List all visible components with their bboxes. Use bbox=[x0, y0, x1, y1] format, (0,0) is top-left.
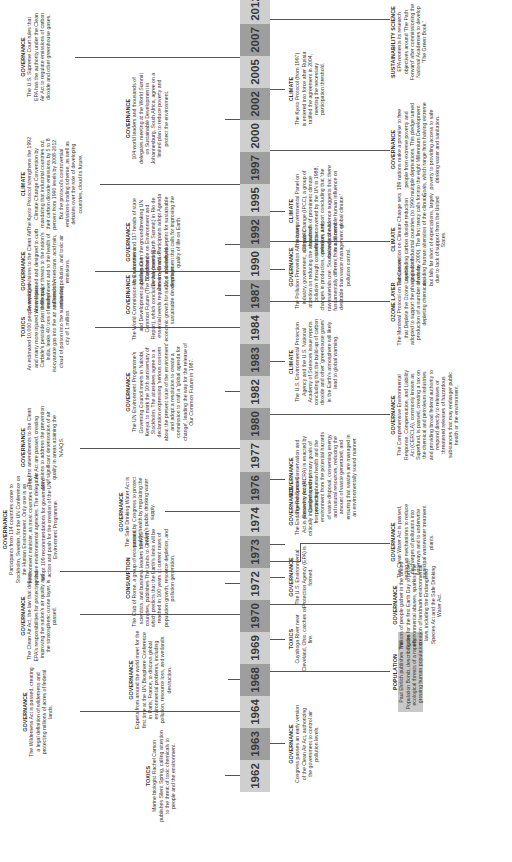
event-text: The Clean Water Act is passed, setting u… bbox=[396, 502, 434, 582]
connector-line bbox=[75, 57, 240, 58]
event-text: Sweeping revisions to the Clean Air Act … bbox=[26, 228, 70, 314]
event-1980-cercla-superfund: GOVERNANCE The Comprehensive Environment… bbox=[390, 368, 459, 462]
event-2005-kyoto-in-force: CLIMATE The Kyoto Protocol (from 1997) i… bbox=[288, 51, 326, 127]
year-label: 1963 bbox=[240, 728, 270, 760]
year-label: 1970 bbox=[240, 600, 270, 632]
event-1976-rcra: GOVERNANCE The Resource Conservation and… bbox=[288, 432, 357, 522]
year-label: 1972 bbox=[240, 568, 270, 600]
connector-line bbox=[270, 561, 300, 562]
year-label: 1995 bbox=[240, 184, 270, 216]
event-1992-climate-convention: CLIMATE The Convention on Climate Change… bbox=[390, 192, 447, 287]
timeline-diagram: 1962 1963 1964 1968 1969 1970 1972 1973 … bbox=[0, 0, 512, 862]
year-label: 1982 bbox=[240, 376, 270, 408]
event-text: The Comprehensive Environmental Response… bbox=[396, 368, 459, 462]
event-1974-safe-drinking-water-act: GOVERNANCE The Safe Drinking Water Act i… bbox=[118, 472, 156, 552]
connector-line bbox=[60, 571, 240, 572]
connector-line bbox=[300, 543, 390, 544]
event-2012-sustainability-science: SUSTAINABILITY SCIENCE EPA reorients its… bbox=[390, 2, 428, 82]
event-text: The Kyoto Protocol strengthens the 1992 … bbox=[26, 136, 83, 232]
year-label: 1962 bbox=[240, 760, 270, 792]
year-label: 1974 bbox=[240, 504, 270, 536]
event-text: 189 nations make a promise to free peopl… bbox=[396, 102, 440, 197]
event-1964-wilderness-act: GOVERNANCE The Wilderness Act is passed,… bbox=[22, 666, 53, 758]
event-text: The Safe Drinking Water Act is passed by… bbox=[124, 472, 155, 552]
year-label: 1980 bbox=[240, 408, 270, 440]
connector-line bbox=[225, 119, 240, 120]
year-label: 1987 bbox=[240, 280, 270, 312]
event-text: Marine biologist Rachel Carson publishes… bbox=[151, 730, 176, 822]
event-2000-millennium-development-goals: GOVERNANCE 189 nations make a promise to… bbox=[390, 102, 440, 197]
event-text: The U.S. Environmental Protection Agency… bbox=[294, 317, 338, 407]
connector-line bbox=[225, 775, 240, 776]
year-label: 1977 bbox=[240, 440, 270, 472]
event-text: The first amendments to the Clean Air Ac… bbox=[26, 405, 64, 490]
connector-line bbox=[225, 583, 240, 584]
event-text: The U.S. Environmental Protection Agency… bbox=[294, 540, 313, 614]
event-text: Experts from around the world meet for t… bbox=[134, 630, 172, 730]
connector-line bbox=[80, 448, 240, 449]
event-1997-kyoto-protocol: CLIMATE The Kyoto Protocol strengthens t… bbox=[20, 136, 83, 232]
connector-line bbox=[225, 295, 240, 296]
event-1995-ipcc-report: CLIMATE The Intergovernmental Panel on C… bbox=[288, 165, 345, 257]
event-text: The UN Environment Programme's Governing… bbox=[131, 342, 194, 442]
event-1982-unep-nairobi: GOVERNANCE The UN Environment Programme'… bbox=[125, 342, 194, 442]
year-label: 2002 bbox=[240, 88, 270, 120]
connector-line bbox=[270, 544, 285, 545]
year-label: 1983 bbox=[240, 344, 270, 376]
connector-line bbox=[270, 150, 390, 151]
event-1977-clean-air-act-amendments: GOVERNANCE The first amendments to the C… bbox=[20, 405, 64, 490]
event-2007-supreme-court-ruling: GOVERNANCE The U.S. Supreme Court rules … bbox=[20, 12, 51, 102]
connector-line bbox=[270, 577, 285, 578]
connector-line bbox=[270, 414, 390, 415]
year-label: 2000 bbox=[240, 120, 270, 152]
event-1992-earth-summit: GOVERNANCE Most countries and 117 heads … bbox=[125, 192, 182, 292]
event-text: The Wilderness Act is passed, creating a… bbox=[28, 666, 53, 758]
event-text: Most countries and 117 heads of state pa… bbox=[131, 192, 181, 292]
connector-line bbox=[270, 19, 390, 20]
event-text: 104 world leaders and thousands of deleg… bbox=[131, 71, 169, 166]
event-1983-climate-reports: CLIMATE The U.S. Environmental Protectio… bbox=[288, 317, 338, 407]
year-label: 2007 bbox=[240, 24, 270, 56]
year-label: 1964 bbox=[240, 696, 270, 728]
connector-line bbox=[270, 211, 285, 212]
year-label: 1990 bbox=[240, 248, 270, 280]
year-label: 1984 bbox=[240, 312, 270, 344]
connector-line bbox=[270, 639, 285, 640]
year-label: 1997 bbox=[240, 152, 270, 184]
event-text: The Resource Conservation and Recovery A… bbox=[294, 432, 357, 522]
year-label: 2012 bbox=[240, 0, 270, 24]
year-label: 1976 bbox=[240, 472, 270, 504]
event-2002-world-summit: GOVERNANCE 104 world leaders and thousan… bbox=[125, 71, 169, 166]
event-text: EPA reorients its research objectives ar… bbox=[396, 2, 427, 82]
connector-line bbox=[270, 89, 285, 90]
timeline-axis: 1962 1963 1964 1968 1969 1970 1972 1973 … bbox=[240, 12, 270, 792]
connector-line bbox=[165, 511, 240, 512]
event-1962-toxics: TOXICS Marine biologist Rachel Carson pu… bbox=[145, 730, 176, 822]
year-label: 1992 bbox=[240, 216, 270, 248]
year-label: 1968 bbox=[240, 664, 270, 696]
connector-line bbox=[300, 544, 301, 562]
connector-line bbox=[100, 184, 240, 185]
event-1990-clean-air-act-revisions: GOVERNANCE Sweeping revisions to the Cle… bbox=[20, 228, 70, 314]
connector-line bbox=[225, 391, 240, 392]
connector-line bbox=[270, 479, 285, 480]
event-1963-early-clean-air-act: GOVERNANCE Congress passes an early vers… bbox=[288, 704, 319, 784]
event-text: The U.S. Supreme Court rules that EPA ha… bbox=[26, 12, 51, 102]
event-1968-biosphere-conference: GOVERNANCE Experts from around the world… bbox=[128, 630, 172, 730]
event-1972-clean-water-act: GOVERNANCE The Clean Water Act is passed… bbox=[390, 502, 434, 582]
event-text: The Intergovernmental Panel on Climate C… bbox=[294, 165, 344, 257]
year-label: 2005 bbox=[240, 56, 270, 88]
connector-line bbox=[270, 361, 285, 362]
connector-line bbox=[225, 244, 240, 245]
year-label: 1973 bbox=[240, 536, 270, 568]
connector-line bbox=[228, 679, 240, 680]
year-label: 1969 bbox=[240, 632, 270, 664]
event-text: Congress passes an early version of the … bbox=[294, 704, 319, 784]
event-text: The Kyoto Protocol (from 1997) is entere… bbox=[294, 51, 325, 127]
connector-line bbox=[270, 269, 285, 270]
connector-line bbox=[270, 743, 285, 744]
event-text: The Convention on Climate Change sets no… bbox=[396, 192, 446, 287]
